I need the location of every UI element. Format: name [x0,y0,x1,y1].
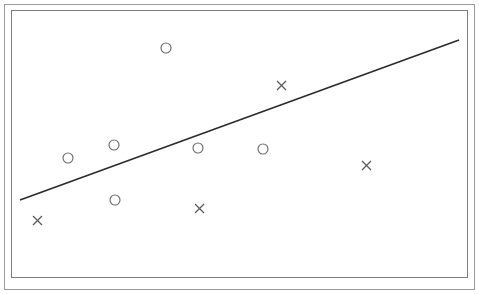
scatter-plot-svg [0,0,479,294]
figure-background [0,0,479,294]
figure-root [0,0,479,294]
